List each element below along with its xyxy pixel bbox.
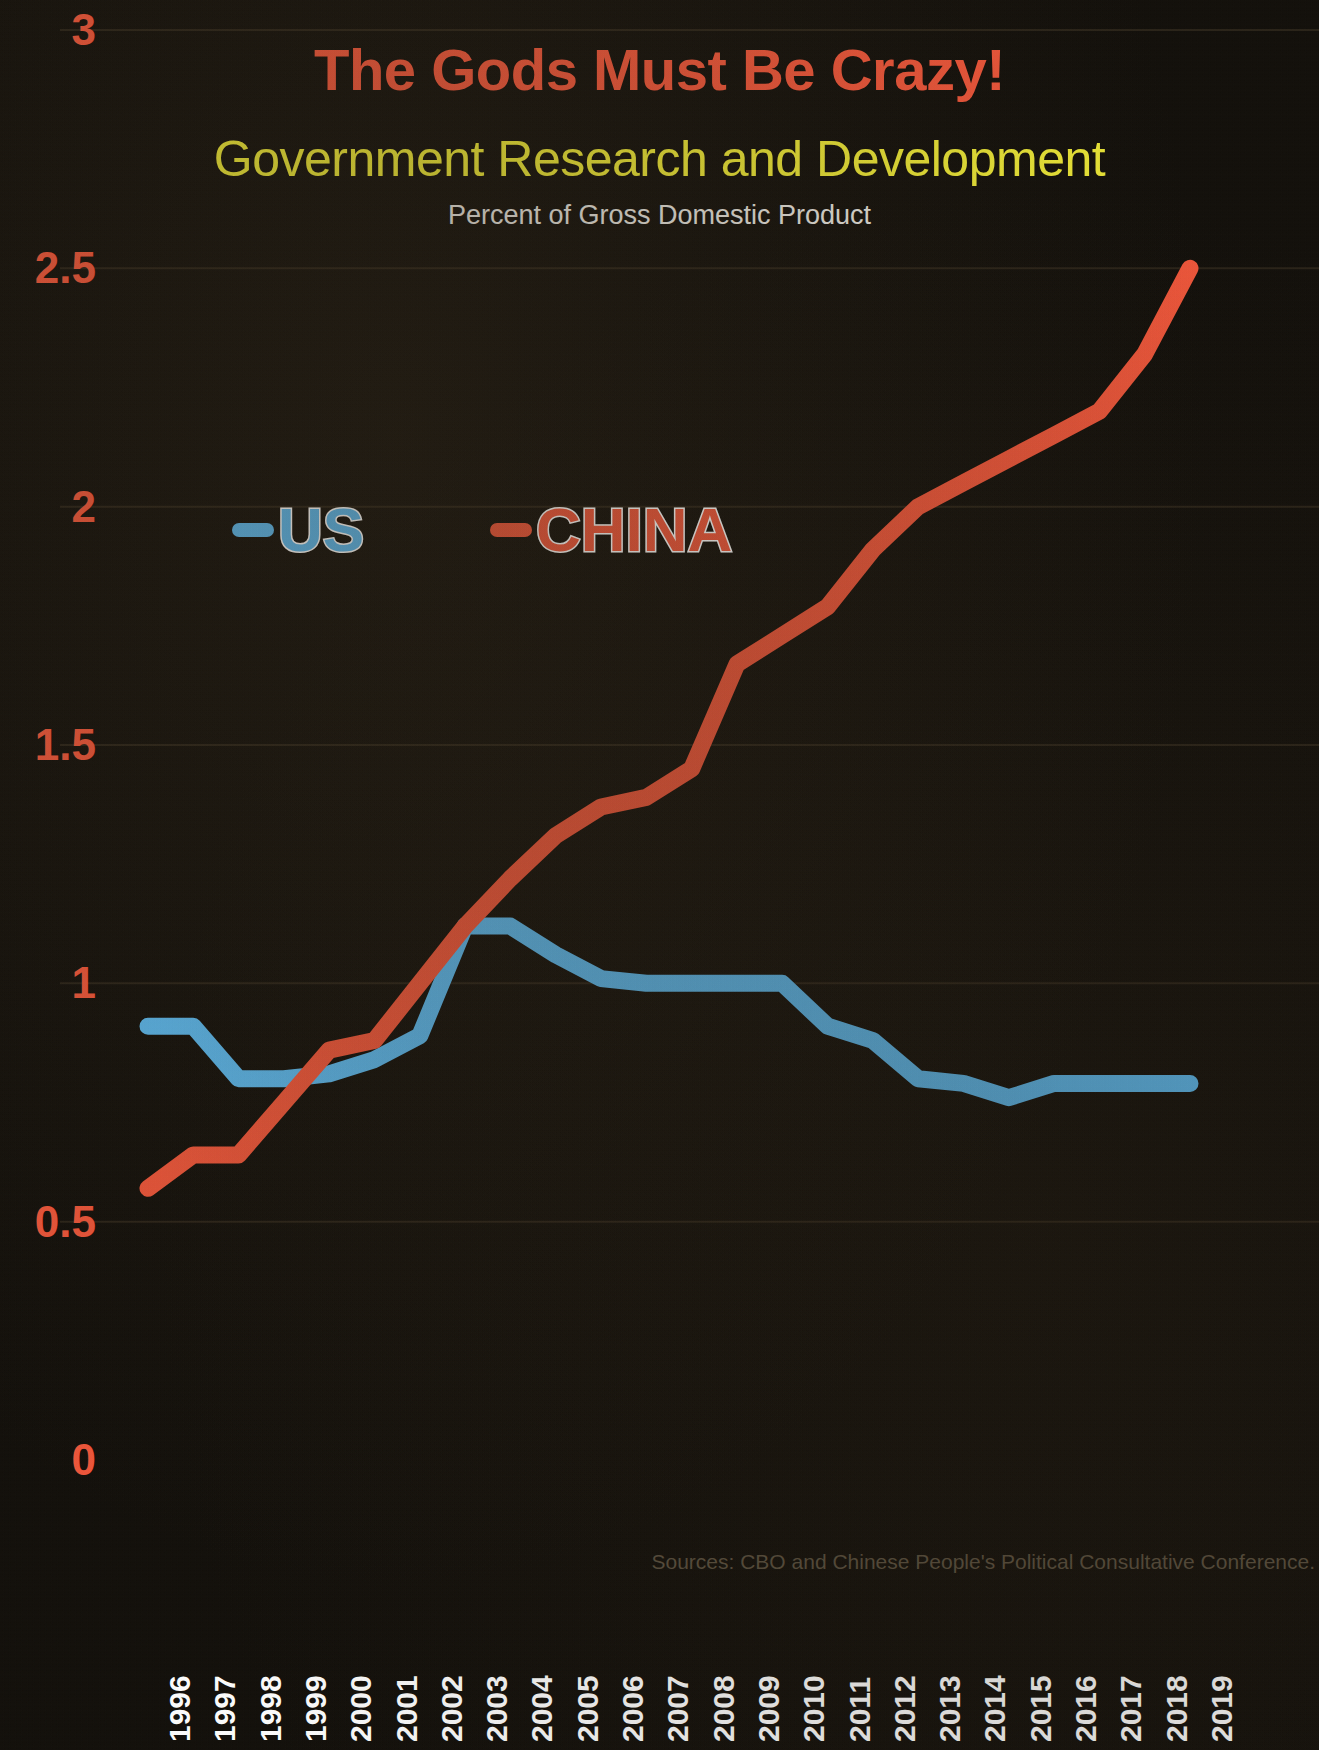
series-line-china: [148, 268, 1190, 1188]
y-axis-tick-1: 1: [0, 958, 96, 1008]
x-axis-tick-1996: 1996: [163, 1675, 197, 1742]
legend-swatch-china: [490, 523, 532, 537]
x-axis-tick-2000: 2000: [344, 1675, 378, 1742]
x-axis-tick-2013: 2013: [933, 1675, 967, 1742]
x-axis-tick-2011: 2011: [843, 1677, 877, 1742]
x-axis-tick-2012: 2012: [888, 1675, 922, 1742]
chart-legend: US CHINA: [232, 490, 832, 570]
x-axis-tick-2017: 2017: [1114, 1675, 1148, 1742]
x-axis-tick-1997: 1997: [208, 1675, 242, 1742]
x-axis-tick-2002: 2002: [435, 1675, 469, 1742]
x-axis-tick-2019: 2019: [1205, 1675, 1239, 1742]
y-axis-tick-1-5: 1.5: [0, 720, 96, 770]
x-axis-tick-2010: 2010: [797, 1675, 831, 1742]
legend-swatch-us: [232, 523, 274, 537]
y-axis-tick-0: 0: [0, 1435, 96, 1485]
chart-subtitle: Government Research and Development: [0, 130, 1319, 188]
y-axis-tick-3: 3: [0, 5, 96, 55]
x-axis-tick-2018: 2018: [1160, 1675, 1194, 1742]
y-axis-tick-0-5: 0.5: [0, 1197, 96, 1247]
y-axis-tick-2: 2: [0, 482, 96, 532]
x-axis-tick-1999: 1999: [299, 1675, 333, 1742]
x-axis-tick-2008: 2008: [707, 1675, 741, 1742]
x-axis-tick-2006: 2006: [616, 1675, 650, 1742]
legend-label-us: US: [278, 499, 364, 561]
source-note: Sources: CBO and Chinese People's Politi…: [0, 1550, 1319, 1574]
x-axis-tick-2004: 2004: [525, 1675, 559, 1742]
gridlines: [60, 30, 1319, 1460]
chart-plot-area: [0, 0, 1319, 1750]
legend-item-china[interactable]: CHINA: [490, 490, 732, 570]
legend-item-us[interactable]: US: [232, 490, 364, 570]
page-title: The Gods Must Be Crazy!: [0, 36, 1319, 103]
x-axis-tick-2007: 2007: [661, 1675, 695, 1742]
x-axis-tick-2016: 2016: [1069, 1675, 1103, 1742]
x-axis-tick-2005: 2005: [571, 1675, 605, 1742]
x-axis-tick-2015: 2015: [1024, 1675, 1058, 1742]
x-axis-tick-2009: 2009: [752, 1675, 786, 1742]
x-axis-tick-1998: 1998: [254, 1675, 288, 1742]
x-axis-tick-2014: 2014: [978, 1675, 1012, 1742]
chart-units-label: Percent of Gross Domestic Product: [0, 200, 1319, 231]
x-axis-tick-2001: 2001: [390, 1675, 424, 1742]
y-axis-tick-2-5: 2.5: [0, 243, 96, 293]
x-axis-tick-2003: 2003: [480, 1675, 514, 1742]
data-series-group: [148, 268, 1190, 1188]
legend-label-china: CHINA: [536, 499, 732, 561]
